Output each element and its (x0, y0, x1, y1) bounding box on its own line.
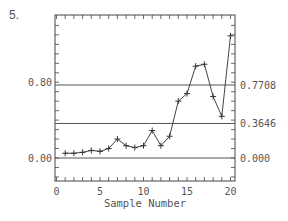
plot-frame (55, 15, 235, 181)
y-tick-label: 0.00 (28, 153, 52, 164)
x-tick-label: 5 (97, 186, 103, 197)
reference-line-label: 0.7708 (240, 80, 276, 91)
x-tick-label: 15 (181, 186, 193, 197)
reference-line-label: 0.3646 (240, 118, 276, 129)
x-tick-label: 10 (137, 186, 149, 197)
x-axis-title: Sample Number (104, 197, 186, 209)
data-line (65, 36, 230, 153)
x-tick-label: 20 (224, 186, 236, 197)
y-tick-label: 0.80 (28, 77, 52, 88)
control-chart: 051015200.800.000.77080.36460.000Sample … (0, 0, 288, 221)
x-tick-label: 0 (53, 186, 59, 197)
reference-line-label: 0.000 (240, 153, 270, 164)
